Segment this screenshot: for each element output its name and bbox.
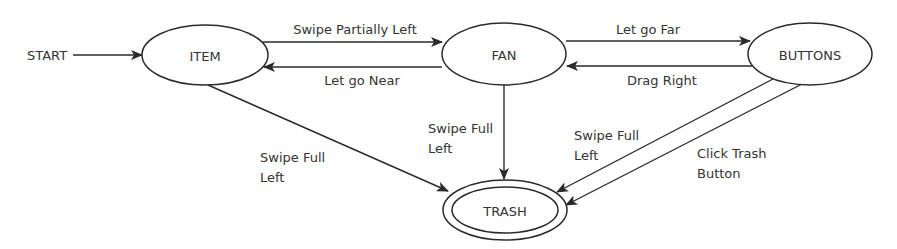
node-item: ITEM [142,25,268,85]
edge-label-buttons-trash-click-line1: Click Trash [697,146,766,161]
state-diagram: START Swipe Partially Left Let go Near L… [0,0,897,249]
edge-label-buttons-trash-click-line2: Button [697,166,741,181]
edge-label-buttons-trash-swipe-line1: Swipe Full [574,128,639,143]
edge-label-item-trash-line2: Left [260,170,284,185]
edge-buttons-to-trash-click [566,84,802,205]
node-trash-label: TRASH [482,204,526,219]
node-trash: TRASH [443,180,567,240]
edge-label-fan-trash-line2: Left [428,141,452,156]
node-item-label: ITEM [189,49,220,64]
node-fan: FAN [442,23,566,85]
start-label: START [27,48,67,63]
node-buttons-label: BUTTONS [779,48,841,63]
node-buttons: BUTTONS [748,23,872,85]
edge-label-buttons-trash-swipe-line2: Left [574,148,598,163]
edge-item-to-trash [208,85,448,191]
edge-label-let-go-far: Let go Far [616,22,681,37]
edge-label-let-go-near: Let go Near [324,73,400,88]
edge-label-fan-trash-line1: Swipe Full [428,121,493,136]
edge-label-item-trash-line1: Swipe Full [260,150,325,165]
edge-label-drag-right: Drag Right [627,73,697,88]
edge-label-swipe-partially-left: Swipe Partially Left [293,22,417,37]
node-fan-label: FAN [492,48,517,63]
